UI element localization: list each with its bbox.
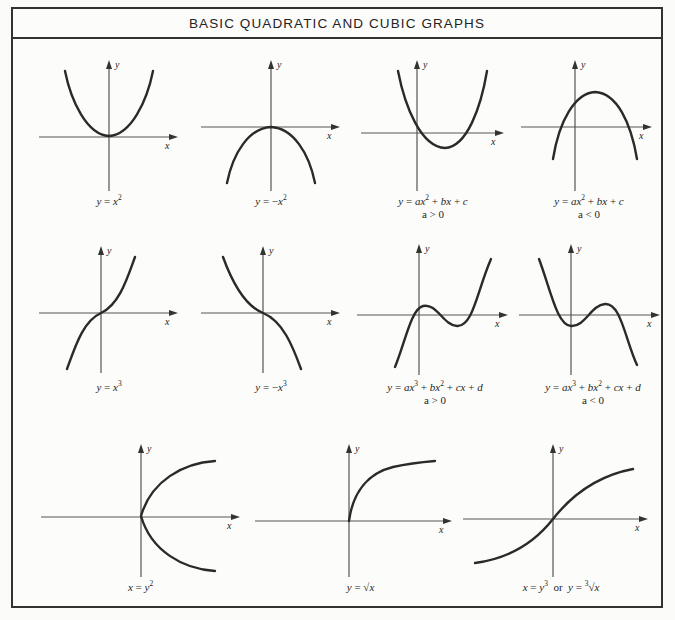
plot-quadratic-general-a-positive: x y (353, 49, 513, 199)
x-axis-label: x (494, 318, 500, 329)
graph-caption: x = y2 (33, 581, 248, 594)
graph-condition: a > 0 (353, 208, 513, 220)
plot-y-equals-sqrt-x: x y (253, 429, 468, 579)
plot-cubic-general-a-negative: x y (513, 235, 673, 385)
graph-caption: y = ax3 + bx2 + cx + d (513, 381, 673, 394)
x-axis-label: x (490, 136, 496, 147)
x-axis-label: x (326, 316, 332, 327)
y-axis-label: y (276, 59, 282, 70)
y-axis-label: y (580, 59, 586, 70)
graph-caption: y = √x (253, 581, 468, 594)
plot-y-equals-x-squared: x y (31, 49, 187, 199)
curve (553, 92, 637, 159)
x-axis-label: x (164, 316, 170, 327)
graph-caption: y = −x3 (193, 381, 349, 394)
graph-panel-y-equals-sqrt-x: x y y = √x (253, 429, 468, 609)
graph-caption: y = x3 (31, 381, 187, 394)
x-axis-label: x (646, 318, 652, 329)
graph-caption: y = x2 (31, 195, 187, 208)
y-axis-label: y (146, 443, 152, 454)
y-axis-label: y (576, 243, 582, 254)
x-axis-label: x (438, 524, 444, 535)
curve (141, 461, 215, 571)
graph-panel-x-equals-y-cubed: x y x = y3 or y = 3√x (461, 429, 661, 609)
graph-panel-quadratic-general-a-positive: x y y = ax2 + bx + c a > 0 (353, 49, 513, 239)
title-bar: BASIC QUADRATIC AND CUBIC GRAPHS (13, 9, 661, 39)
graph-caption: x = y3 or y = 3√x (461, 581, 661, 594)
plot-cubic-general-a-positive: x y (349, 235, 521, 385)
y-axis-label: y (354, 443, 360, 454)
plot-quadratic-general-a-negative: x y (513, 49, 665, 199)
plot-y-equals-negative-x-cubed: x y (193, 235, 349, 385)
x-axis-label: x (326, 130, 332, 141)
graph-panel-quadratic-general-a-negative: x y y = ax2 + bx + c a < 0 (513, 49, 665, 239)
page-root: BASIC QUADRATIC AND CUBIC GRAPHS x y y =… (0, 0, 675, 620)
curve (539, 259, 637, 365)
graph-panel-y-equals-negative-x-squared: x y y = −x2 (193, 49, 349, 229)
graph-panel-y-equals-x-cubed: x y y = x3 (31, 235, 187, 415)
plot-x-equals-y-cubed: x y (461, 429, 661, 579)
graph-condition: a < 0 (513, 394, 673, 406)
graph-caption: y = ax2 + bx + c (353, 195, 513, 208)
x-axis-label: x (638, 130, 644, 141)
graph-condition: a > 0 (349, 394, 521, 406)
graph-grid: x y y = x2 x y y = −x2 (13, 41, 661, 606)
curve (398, 71, 487, 148)
x-axis-label: x (634, 522, 640, 533)
graph-panel-x-equals-y-squared: x y x = y2 (33, 429, 248, 609)
x-axis-label: x (164, 140, 170, 151)
graph-panel-y-equals-x-squared: x y y = x2 (31, 49, 187, 229)
y-axis-label: y (268, 245, 274, 256)
plot-y-equals-x-cubed: x y (31, 235, 187, 385)
y-axis-label: y (422, 59, 428, 70)
graph-condition: a < 0 (513, 208, 665, 220)
graph-panel-y-equals-negative-x-cubed: x y y = −x3 (193, 235, 349, 415)
curve (475, 469, 633, 563)
y-axis-label: y (114, 59, 120, 70)
y-axis-label: y (558, 443, 564, 454)
plot-x-equals-y-squared: x y (33, 429, 248, 579)
plot-y-equals-negative-x-squared: x y (193, 49, 349, 199)
graph-panel-cubic-general-a-positive: x y y = ax3 + bx2 + cx + d a > 0 (349, 235, 521, 425)
graph-panel-cubic-general-a-negative: x y y = ax3 + bx2 + cx + d a < 0 (513, 235, 673, 425)
y-axis-label: y (424, 243, 430, 254)
graph-caption: y = ax3 + bx2 + cx + d (349, 381, 521, 394)
y-axis-label: y (106, 245, 112, 256)
figure-frame: BASIC QUADRATIC AND CUBIC GRAPHS x y y =… (11, 7, 663, 608)
page-title: BASIC QUADRATIC AND CUBIC GRAPHS (189, 16, 485, 31)
graph-caption: y = −x2 (193, 195, 349, 208)
x-axis-label: x (226, 520, 232, 531)
graph-caption: y = ax2 + bx + c (513, 195, 665, 208)
curve (395, 259, 491, 367)
curve (349, 461, 435, 521)
